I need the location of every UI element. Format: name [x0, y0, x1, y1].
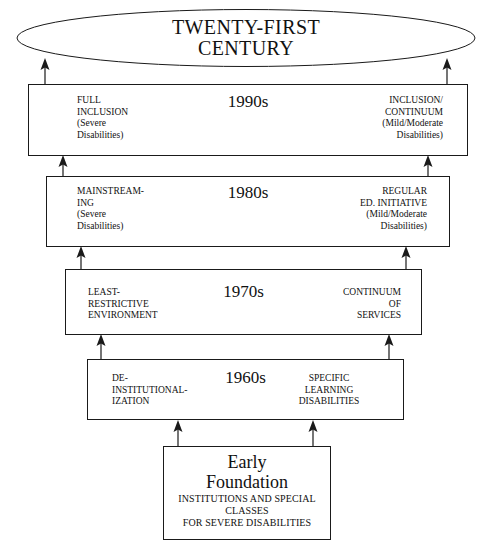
diagram-canvas: TWENTY-FIRST CENTURY 1990s FULL INCLUSIO… [0, 0, 492, 556]
twenty-first-century-label: TWENTY-FIRST CENTURY [16, 17, 476, 59]
arrow-up-icon [75, 246, 87, 271]
arrow-up-icon [307, 420, 319, 447]
era-box-1970s[interactable]: 1970s LEAST- RESTRICTIVE ENVIRONMENT CON… [65, 269, 422, 335]
twenty-first-century-node[interactable]: TWENTY-FIRST CENTURY [16, 8, 476, 68]
early-foundation-node[interactable]: Early Foundation INSTITUTIONS AND SPECIA… [163, 446, 331, 540]
early-foundation-subtitle: INSTITUTIONS AND SPECIAL CLASSES FOR SEV… [164, 493, 330, 530]
era-left-label-1980s: MAINSTREAM- ING (Severe Disabilities) [77, 186, 237, 232]
era-left-label-1990s: FULL INCLUSION (Severe Disabilities) [77, 95, 227, 141]
era-box-1980s[interactable]: 1980s MAINSTREAM- ING (Severe Disabiliti… [46, 176, 450, 247]
early-foundation-title: Early Foundation [164, 452, 330, 492]
era-left-label-1970s: LEAST- RESTRICTIVE ENVIRONMENT [88, 287, 238, 322]
era-box-1990s[interactable]: 1990s FULL INCLUSION (Severe Disabilitie… [28, 84, 468, 156]
arrow-up-icon [95, 334, 107, 360]
era-right-label-1980s: REGULAR ED. INITIATIVE (Mild/Moderate Di… [267, 186, 427, 232]
era-right-label-1990s: INCLUSION/ CONTINUUM (Mild/Moderate Disa… [283, 95, 443, 141]
arrow-up-icon [383, 334, 395, 360]
arrow-up-icon [441, 58, 453, 84]
era-right-label-1970s: CONTINUUM OF SERVICES [261, 287, 401, 322]
era-box-1960s[interactable]: 1960s DE- INSTITUTIONAL- IZATION SPECIFI… [87, 359, 404, 420]
arrow-up-icon [39, 58, 51, 84]
arrow-up-icon [172, 420, 184, 447]
era-right-label-1960s: SPECIFIC LEARNING DISABILITIES [269, 373, 389, 408]
era-left-label-1960s: DE- INSTITUTIONAL- IZATION [112, 373, 262, 408]
arrow-up-icon [57, 155, 69, 178]
arrow-up-icon [400, 246, 412, 271]
arrow-up-icon [422, 155, 434, 178]
